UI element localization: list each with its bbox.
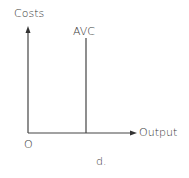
y-axis-arrow-icon bbox=[26, 26, 31, 33]
x-axis-arrow-icon bbox=[130, 131, 137, 136]
origin-label: O bbox=[24, 139, 33, 151]
avc-label: AVC bbox=[73, 26, 95, 38]
caption: d. bbox=[96, 156, 106, 168]
x-axis-label: Output bbox=[139, 127, 177, 139]
y-axis-label: Costs bbox=[14, 8, 44, 20]
